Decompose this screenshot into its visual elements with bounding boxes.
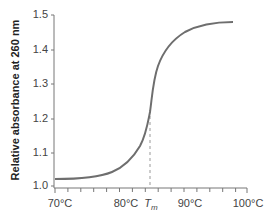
x-tick-80: 80°C <box>114 197 139 209</box>
tm-symbol: T <box>144 197 151 209</box>
x-axis-ticks <box>55 188 247 193</box>
x-tick-tm: Tm <box>144 197 157 212</box>
x-tick-90: 90°C <box>178 197 203 209</box>
x-tick-70: 70°C <box>48 197 73 209</box>
plot-area <box>0 0 274 215</box>
x-tick-100: 100°C <box>233 197 264 209</box>
melting-curve <box>55 22 233 179</box>
tm-subscript: m <box>151 203 158 212</box>
melting-curve-chart: Relative absorbance at 260 nm 1.5 1.4 1.… <box>0 0 274 215</box>
